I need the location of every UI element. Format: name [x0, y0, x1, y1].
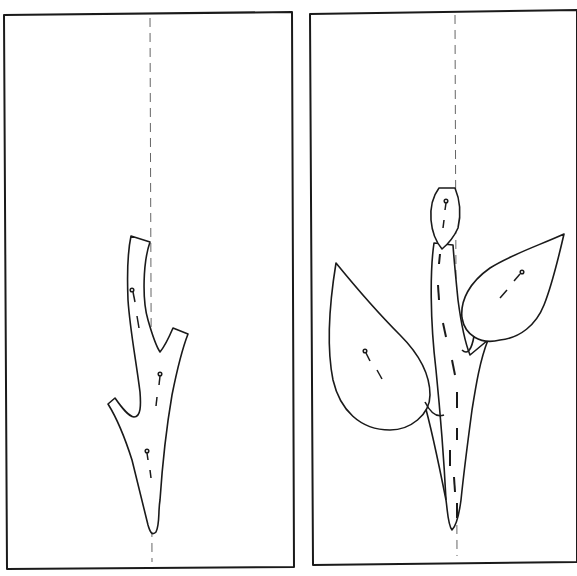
stem-piece	[108, 236, 188, 534]
right-leaf	[462, 234, 564, 341]
bud	[431, 188, 460, 249]
panel-step-1	[4, 12, 294, 569]
illustration-canvas	[0, 0, 577, 576]
left-leaf	[329, 263, 430, 430]
panel-step-2	[310, 10, 577, 565]
